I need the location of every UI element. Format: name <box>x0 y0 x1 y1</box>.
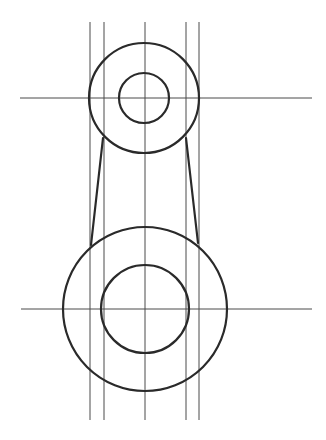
link-arm-drawing <box>0 0 326 440</box>
drawing-background <box>0 0 326 440</box>
